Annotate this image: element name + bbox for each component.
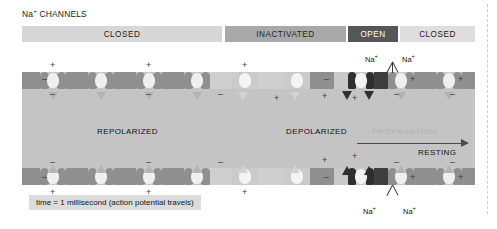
lipid-slab (210, 72, 232, 89)
charge-inside-negative: – (218, 158, 223, 167)
ion-label-na-top-left: Na+ (365, 53, 378, 64)
sodium-channel-closed[interactable] (88, 72, 114, 89)
state-segment-label: CLOSED (104, 30, 141, 39)
page-title-rest: CHANNELS (37, 9, 87, 19)
lipid-slab (66, 168, 88, 185)
charge-outside-positive: + (410, 173, 415, 182)
propagation-arrow-icon (357, 142, 469, 144)
ion-label-na-top-right: Na+ (402, 53, 415, 64)
charge-inside-negative: – (450, 90, 455, 99)
time-caption: time = 1 millisecond (action potential t… (29, 195, 201, 210)
time-caption-text: time = 1 millisecond (action potential t… (36, 198, 194, 207)
charge-inside-negative: – (146, 158, 151, 167)
charge-outside-negative: – (42, 75, 47, 84)
lipid-slab (162, 72, 184, 89)
right-margin-rule (487, 4, 488, 214)
lipid-slab (374, 168, 388, 185)
sodium-channel-open[interactable] (348, 72, 374, 89)
figure-root: Na+ CHANNELS CLOSED INACTIVATED OPEN CLO… (0, 0, 497, 229)
charge-outside-positive: + (458, 75, 463, 84)
state-segment-label: CLOSED (419, 30, 456, 39)
charge-outside-negative: – (324, 173, 329, 182)
charge-outside-positive: + (458, 173, 463, 182)
charge-inside-positive: + (352, 152, 357, 161)
ion-lead-line (392, 62, 393, 73)
lipid-slab (374, 72, 388, 89)
lipid-slab (66, 72, 88, 89)
charge-inside-positive: + (274, 94, 279, 103)
ion-lead-line (392, 184, 399, 195)
charge-outside-positive: + (146, 61, 151, 70)
page-title-prefix: Na (22, 9, 33, 19)
membrane-top (22, 72, 475, 89)
charge-inside-positive: + (322, 92, 327, 101)
label-depolarized: DEPOLARIZED (286, 127, 347, 136)
state-segment-label: OPEN (360, 30, 385, 39)
label-resting: RESTING (418, 148, 456, 157)
charge-inside-negative: – (394, 158, 399, 167)
lipid-slab (310, 168, 334, 185)
state-segment-label: INACTIVATED (256, 30, 314, 39)
sodium-channel-closed[interactable] (136, 72, 162, 89)
charge-outside-negative: – (42, 173, 47, 182)
lipid-slab (462, 72, 475, 89)
lipid-slab (462, 168, 475, 185)
lipid-slab (210, 168, 232, 185)
lipid-slab (22, 168, 40, 185)
charge-outside-positive: + (50, 61, 55, 70)
page-title: Na+ CHANNELS (22, 7, 87, 19)
charge-inside-negative: – (394, 90, 399, 99)
state-segment-inactivated[interactable]: INACTIVATED (225, 26, 346, 42)
lipid-slab (258, 168, 284, 185)
ion-label-na-bottom-right: Na+ (403, 205, 416, 216)
label-repolarized: REPOLARIZED (97, 127, 158, 136)
sodium-channel-closed[interactable] (184, 72, 210, 89)
lipid-slab (114, 168, 136, 185)
state-segment-closed-left[interactable]: CLOSED (22, 26, 222, 42)
charge-inside-negative: – (146, 90, 151, 99)
charge-outside-negative: – (324, 75, 329, 84)
ion-label-na-bottom-left: Na+ (363, 205, 376, 216)
membrane-bottom (22, 168, 475, 185)
lipid-slab (258, 72, 284, 89)
sodium-channel-inactivated[interactable] (232, 72, 258, 89)
channel-state-bar: CLOSED INACTIVATED OPEN CLOSED (22, 26, 475, 42)
lipid-slab (114, 72, 136, 89)
charge-outside-positive: + (242, 188, 247, 197)
charge-outside-positive: + (410, 75, 415, 84)
charge-inside-negative: – (50, 158, 55, 167)
charge-inside-negative: – (218, 90, 223, 99)
charge-inside-positive: + (352, 94, 357, 103)
charge-outside-positive: + (242, 61, 247, 70)
lipid-slab (414, 72, 436, 89)
lipid-slab (162, 168, 184, 185)
lipid-slab (310, 72, 334, 89)
lipid-slab (414, 168, 436, 185)
label-propagation: PROPAGATION (372, 127, 437, 136)
sodium-channel-inactivated[interactable] (284, 72, 310, 89)
charge-inside-negative: – (50, 90, 55, 99)
charge-inside-negative: – (450, 158, 455, 167)
charge-inside-positive: + (322, 156, 327, 165)
state-segment-closed-right[interactable]: CLOSED (400, 26, 475, 42)
lipid-slab (22, 72, 40, 89)
state-segment-open[interactable]: OPEN (348, 26, 398, 42)
